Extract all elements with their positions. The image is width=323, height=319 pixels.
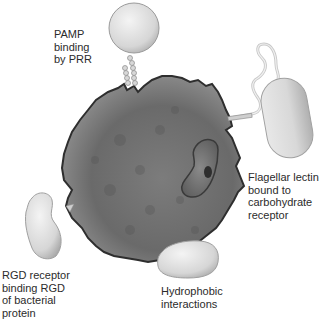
pamp-bacterium: [109, 3, 159, 86]
phagocyte-cell: [62, 76, 244, 262]
label-hydrophobic: Hydrophobic interactions: [161, 285, 223, 310]
diagram-stage: PAMP binding by PRR Flagellar lectin bou…: [0, 0, 323, 319]
flagellated-bacterium: [228, 44, 317, 161]
label-pamp-binding: PAMP binding by PRR: [54, 28, 92, 66]
label-rgd-receptor: RGD receptor binding RGD of bacterial pr…: [2, 269, 70, 319]
label-flagellar-lectin: Flagellar lectin bound to carbohydrate r…: [248, 171, 319, 221]
